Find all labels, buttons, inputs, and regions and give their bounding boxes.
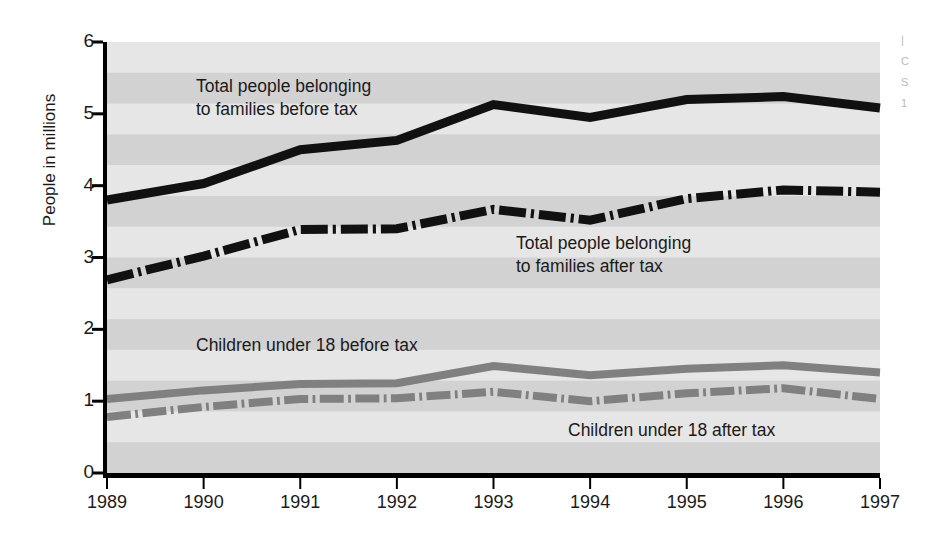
note-total-before-tax: Total people belonging to families befor… — [196, 75, 371, 121]
note-children-after-tax: Children under 18 after tax — [568, 419, 775, 442]
plot-band — [107, 134, 880, 165]
x-axis-tick-label: 1994 — [545, 492, 635, 513]
y-axis-tick-label: 1 — [68, 390, 94, 409]
chart-figure: People in millions 0123456 1989199019911… — [0, 0, 927, 547]
y-axis-tick-labels: 0123456 — [62, 0, 94, 547]
note-children-before-tax: Children under 18 before tax — [196, 334, 418, 357]
y-axis-tick-label: 0 — [68, 462, 94, 481]
x-axis-tick-label: 1989 — [62, 492, 152, 513]
y-axis-tick-label: 4 — [68, 175, 94, 194]
y-axis-title: People in millions — [40, 50, 60, 270]
x-axis-tick — [203, 478, 205, 489]
x-axis-tick-label: 1993 — [449, 492, 539, 513]
x-axis-tick — [396, 478, 398, 489]
plot-band — [107, 227, 880, 258]
margin-note-line: S — [901, 72, 927, 93]
x-axis-tick — [589, 478, 591, 489]
y-axis-tick-label: 5 — [68, 103, 94, 122]
margin-note-clipped: |CS1 — [901, 30, 927, 110]
x-axis-tick-label: 1996 — [738, 492, 828, 513]
x-axis-tick-label: 1997 — [835, 492, 925, 513]
margin-note-line: | — [901, 30, 927, 51]
x-axis-tick-label: 1995 — [642, 492, 732, 513]
margin-note-line: 1 — [901, 93, 927, 110]
plot-band — [107, 42, 880, 73]
x-axis-tick-label: 1991 — [255, 492, 345, 513]
x-axis-tick — [686, 478, 688, 489]
plot-band — [107, 442, 880, 473]
x-axis-tick-label: 1990 — [159, 492, 249, 513]
plot-band — [107, 258, 880, 289]
x-axis-tick-label: 1992 — [352, 492, 442, 513]
x-axis-tick — [106, 478, 108, 489]
y-axis-tick-label: 3 — [68, 247, 94, 266]
margin-note-line: C — [901, 51, 927, 72]
y-axis-tick-label: 6 — [68, 31, 94, 50]
x-axis-tick — [299, 478, 301, 489]
note-total-after-tax: Total people belonging to families after… — [516, 232, 691, 278]
y-axis-line — [103, 42, 107, 478]
plot-area — [0, 0, 927, 547]
plot-band — [107, 288, 880, 319]
x-axis-line — [103, 473, 880, 478]
x-axis-tick — [493, 478, 495, 489]
x-axis-tick — [782, 478, 784, 489]
x-axis-tick — [879, 478, 881, 489]
y-axis-tick-label: 2 — [68, 318, 94, 337]
